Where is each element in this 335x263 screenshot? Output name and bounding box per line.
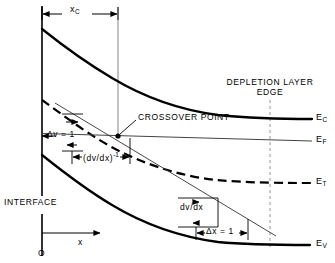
ef-label: EF [316, 134, 327, 145]
xc-dimension-label: xC [70, 4, 80, 15]
et-label: ET [316, 176, 327, 187]
origin-label: O [38, 249, 45, 259]
delta-x-label: Δx = 1 [206, 227, 234, 237]
ec-label: EC [316, 112, 327, 123]
tangent-line [55, 103, 276, 236]
ef-line [42, 134, 312, 142]
ec-curve [42, 29, 312, 119]
crossover-point-marker [115, 133, 120, 138]
depletion-layer-edge-label: DEPLETION LAYER EDGE [222, 78, 318, 98]
inverse-slope-label: (dv/dx)-1 [83, 151, 119, 164]
xc-dimension [42, 7, 118, 20]
delta-v-label: Δv = 1 [47, 130, 75, 140]
band-diagram-figure: xC DEPLETION LAYER EDGE CROSSOVER POINT … [0, 0, 335, 263]
crossover-leader-line [120, 120, 136, 134]
crossover-point-label: CROSSOVER POINT [138, 113, 230, 123]
ev-label: EV [316, 238, 327, 249]
slope-label: dv/dx [180, 203, 203, 213]
interface-label: INTERFACE [4, 198, 57, 208]
x-axis-label: x [78, 238, 83, 248]
